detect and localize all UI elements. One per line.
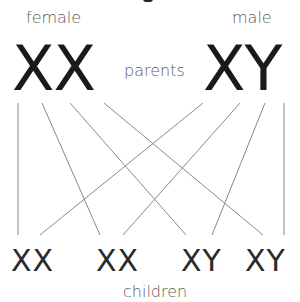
child-2-chromosomes: XX bbox=[96, 246, 139, 276]
line-female-x1-to-child2 bbox=[42, 103, 100, 235]
child-1-chromosomes: XX bbox=[11, 246, 54, 276]
child-3-chromosomes: XY bbox=[181, 246, 222, 276]
children-label: children bbox=[123, 282, 187, 301]
line-male-x-to-child2 bbox=[123, 103, 240, 235]
line-male-x-to-child1 bbox=[40, 103, 203, 235]
child-4-chromosomes: XY bbox=[245, 246, 286, 276]
